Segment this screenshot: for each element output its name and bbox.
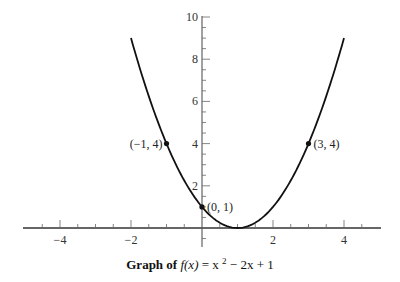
data-point xyxy=(199,204,204,209)
axes: −4−224246810 xyxy=(23,10,381,247)
points-group: (−1, 4)(0, 1)(3, 4) xyxy=(130,137,340,214)
y-tick-label: 2 xyxy=(192,179,198,193)
point-label: (−1, 4) xyxy=(130,137,163,151)
x-tick-label: −4 xyxy=(54,233,67,247)
point-label: (0, 1) xyxy=(207,200,233,214)
y-tick-label: 6 xyxy=(192,94,198,108)
x-tick-label: 4 xyxy=(341,233,347,247)
curve-group xyxy=(131,38,344,228)
point-label: (3, 4) xyxy=(314,137,340,151)
data-point xyxy=(306,141,311,146)
y-tick-label: 10 xyxy=(186,10,198,24)
title-func: f(x) xyxy=(180,257,198,272)
x-tick-label: 2 xyxy=(270,233,276,247)
title-sup: 2 xyxy=(222,256,227,266)
function-graph: −4−224246810 (−1, 4)(0, 1)(3, 4) Graph o… xyxy=(0,0,400,282)
y-tick-label: 8 xyxy=(192,52,198,66)
function-curve xyxy=(131,38,344,228)
y-tick-label: 4 xyxy=(192,137,198,151)
chart-title: Graph of f(x) = x 2 − 2x + 1 xyxy=(126,252,273,272)
title-eq: = x xyxy=(202,257,220,272)
title-rest: − 2x + 1 xyxy=(230,257,274,272)
title-prefix: Graph of xyxy=(126,257,178,272)
data-point xyxy=(164,141,169,146)
x-tick-label: −2 xyxy=(125,233,138,247)
